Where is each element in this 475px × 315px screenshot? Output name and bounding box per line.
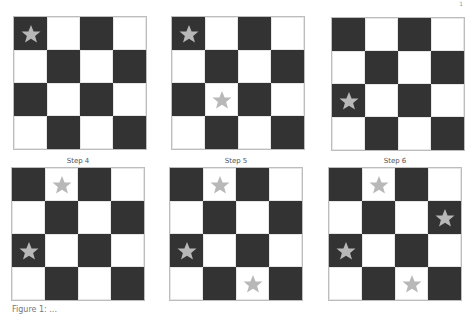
board-cell bbox=[236, 234, 269, 267]
board-cell bbox=[47, 83, 80, 116]
board-cell bbox=[111, 267, 144, 300]
panel-title: Step 4 bbox=[12, 156, 144, 166]
board-cell bbox=[113, 116, 146, 149]
board-cell bbox=[362, 168, 395, 201]
board-cell bbox=[332, 18, 365, 51]
board-cell bbox=[47, 116, 80, 149]
board-cell bbox=[395, 234, 428, 267]
page-number: 1 bbox=[459, 0, 463, 7]
board-cell bbox=[395, 168, 428, 201]
panel-title: Step 6 bbox=[329, 156, 461, 166]
checkerboard bbox=[170, 168, 302, 300]
board-cell bbox=[205, 17, 238, 50]
board-cell bbox=[14, 17, 47, 50]
board-cell bbox=[431, 84, 464, 117]
board-cell bbox=[238, 116, 271, 149]
board-cell bbox=[365, 84, 398, 117]
board-cell bbox=[365, 18, 398, 51]
board-cell bbox=[14, 50, 47, 83]
star-icon bbox=[19, 241, 39, 261]
board-cell bbox=[111, 168, 144, 201]
board-cell bbox=[203, 168, 236, 201]
panel-step-5: Step 5 bbox=[170, 168, 302, 300]
board-cell bbox=[45, 168, 78, 201]
board-cell bbox=[205, 50, 238, 83]
board-cell bbox=[172, 83, 205, 116]
board-cell bbox=[172, 116, 205, 149]
board-cell bbox=[362, 267, 395, 300]
board-cell bbox=[172, 17, 205, 50]
star-icon bbox=[177, 241, 197, 261]
board-cell bbox=[172, 50, 205, 83]
board-cell bbox=[431, 18, 464, 51]
board-cell bbox=[428, 168, 461, 201]
board-cell bbox=[236, 168, 269, 201]
board-cell bbox=[398, 84, 431, 117]
board-cell bbox=[205, 116, 238, 149]
board-cell bbox=[329, 201, 362, 234]
board-cell bbox=[12, 234, 45, 267]
panel-title: Step 5 bbox=[170, 156, 302, 166]
panel-step-6: Step 6 bbox=[329, 168, 461, 300]
board-cell bbox=[395, 267, 428, 300]
panel-step-3 bbox=[332, 18, 464, 150]
panel-step-4: Step 4 bbox=[12, 168, 144, 300]
board-cell bbox=[80, 83, 113, 116]
checkerboard bbox=[329, 168, 461, 300]
star-icon bbox=[212, 90, 232, 110]
star-icon bbox=[435, 208, 455, 228]
board-cell bbox=[362, 201, 395, 234]
star-icon bbox=[52, 175, 72, 195]
board-cell bbox=[398, 51, 431, 84]
board-cell bbox=[80, 17, 113, 50]
checkerboard bbox=[14, 17, 146, 149]
board-cell bbox=[398, 18, 431, 51]
board-cell bbox=[45, 234, 78, 267]
board-cell bbox=[269, 201, 302, 234]
board-cell bbox=[271, 50, 304, 83]
board-cell bbox=[113, 83, 146, 116]
checkerboard bbox=[332, 18, 464, 150]
star-icon bbox=[336, 241, 356, 261]
board-cell bbox=[332, 51, 365, 84]
board-cell bbox=[111, 234, 144, 267]
board-cell bbox=[170, 168, 203, 201]
board-cell bbox=[365, 51, 398, 84]
board-cell bbox=[332, 117, 365, 150]
board-cell bbox=[203, 201, 236, 234]
board-cell bbox=[398, 117, 431, 150]
board-cell bbox=[205, 83, 238, 116]
board-cell bbox=[269, 267, 302, 300]
board-cell bbox=[238, 17, 271, 50]
panel-step-1 bbox=[14, 17, 146, 149]
board-cell bbox=[329, 234, 362, 267]
board-cell bbox=[12, 201, 45, 234]
board-cell bbox=[113, 17, 146, 50]
board-cell bbox=[269, 234, 302, 267]
board-cell bbox=[236, 267, 269, 300]
board-cell bbox=[431, 51, 464, 84]
board-cell bbox=[271, 116, 304, 149]
checkerboard bbox=[12, 168, 144, 300]
checkerboard bbox=[172, 17, 304, 149]
star-icon bbox=[210, 175, 230, 195]
board-cell bbox=[431, 117, 464, 150]
board-cell bbox=[45, 201, 78, 234]
board-cell bbox=[332, 84, 365, 117]
board-cell bbox=[269, 168, 302, 201]
star-icon bbox=[369, 175, 389, 195]
board-cell bbox=[47, 17, 80, 50]
panel-step-2 bbox=[172, 17, 304, 149]
star-icon bbox=[402, 274, 422, 294]
board-cell bbox=[113, 50, 146, 83]
board-cell bbox=[362, 234, 395, 267]
star-icon bbox=[339, 91, 359, 111]
star-icon bbox=[179, 24, 199, 44]
board-cell bbox=[236, 201, 269, 234]
board-cell bbox=[203, 267, 236, 300]
board-cell bbox=[238, 83, 271, 116]
board-cell bbox=[428, 234, 461, 267]
figure-canvas: 1 Step 4 Step 5 Step 6 Figure 1: ... bbox=[0, 0, 475, 315]
board-cell bbox=[271, 17, 304, 50]
board-cell bbox=[78, 234, 111, 267]
